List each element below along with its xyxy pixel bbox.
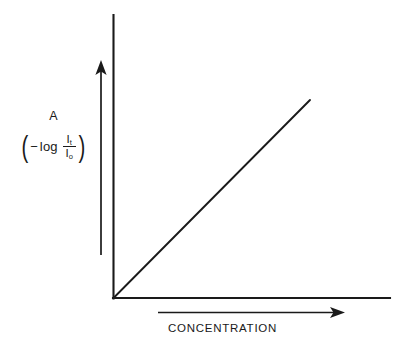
x-axis-label: CONCENTRATION [150, 322, 295, 334]
log-text: log [40, 140, 58, 153]
fraction-denominator: Io [64, 147, 75, 160]
fraction-numerator: It [65, 134, 74, 147]
denominator-subscript: o [69, 152, 73, 161]
y-axis-label-symbol: A [6, 110, 101, 123]
intensity-ratio-fraction: It Io [63, 134, 76, 160]
numerator-subscript: t [70, 138, 72, 147]
plot-canvas [0, 0, 415, 353]
absorbance-vs-concentration-figure: A ( − log It Io ) CONCENTRATION [0, 0, 415, 353]
y-axis-label-expression: ( − log It Io ) [6, 134, 101, 160]
data-trend-line [115, 100, 311, 297]
paren-close: ) [78, 136, 85, 158]
minus-sign: − [30, 140, 38, 153]
paren-open: ( [22, 136, 29, 158]
y-axis-label: A ( − log It Io ) [6, 110, 101, 160]
right-arrow-icon [158, 307, 345, 318]
